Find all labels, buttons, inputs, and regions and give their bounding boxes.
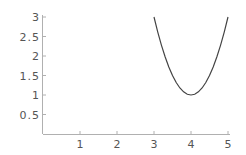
plot-area	[154, 17, 228, 95]
x-tick-label: 5	[225, 138, 232, 151]
y-tick-label: 1	[32, 89, 40, 102]
x-tick-label: 1	[77, 138, 84, 151]
y-tick-label: 2.5	[20, 31, 41, 44]
y-tick-label: 0.5	[20, 109, 41, 122]
y-tick-label: 2	[32, 50, 40, 63]
y-tick-label: 1.5	[20, 70, 41, 83]
x-tick-label: 4	[188, 138, 195, 151]
chart: 12345 0.511.522.53	[0, 0, 246, 155]
axes	[43, 15, 231, 135]
x-tick-label: 2	[114, 138, 121, 151]
y-tick-label: 3	[32, 11, 40, 24]
x-tick-label: 3	[151, 138, 158, 151]
series-line	[154, 17, 228, 95]
